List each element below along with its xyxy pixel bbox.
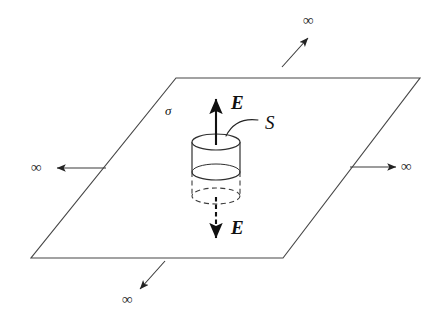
gauss-law-plane-figure: σ S E E ∞ ∞ ∞ ∞: [0, 0, 448, 327]
extent-arrow-top-right: [282, 38, 308, 67]
surface-charge-density-label: σ: [165, 104, 171, 117]
infinity-label-right: ∞: [401, 159, 412, 174]
field-label-up: E: [231, 93, 244, 112]
infinity-label-left: ∞: [31, 160, 42, 175]
infinity-label-top: ∞: [303, 13, 314, 28]
figure-vector-canvas: [0, 0, 448, 327]
gaussian-surface-label: S: [265, 113, 275, 132]
field-label-down: E: [231, 218, 244, 237]
surface-label-leader: [226, 120, 258, 136]
infinity-label-bottom: ∞: [122, 292, 133, 307]
cylinder-bottom-ellipse: [192, 188, 240, 204]
extent-arrow-bottom-left: [140, 261, 165, 289]
